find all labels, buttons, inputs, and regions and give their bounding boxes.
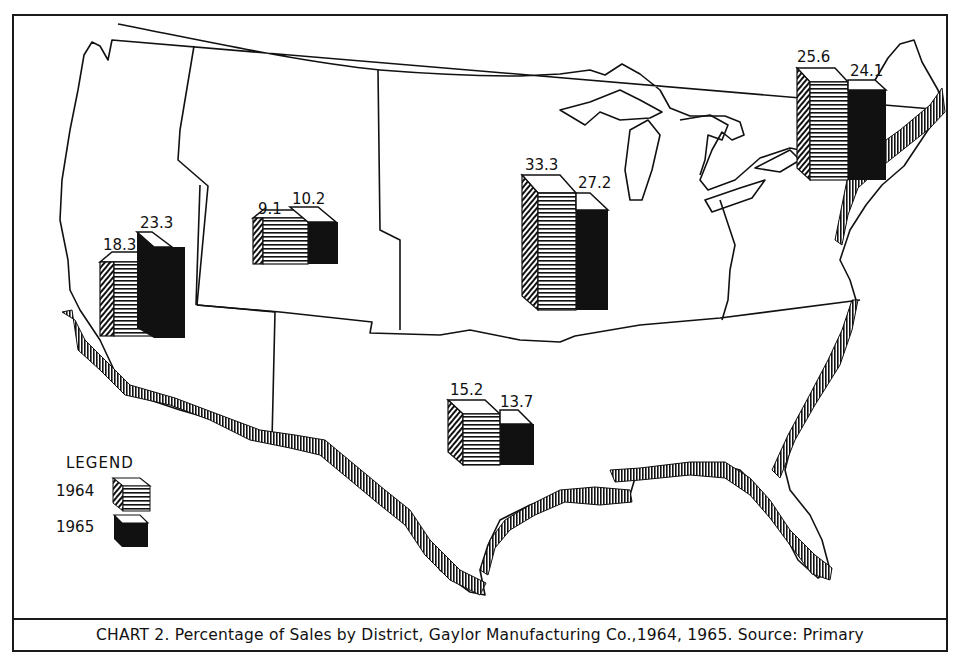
label-northeast-1965: 24.1 — [850, 62, 883, 80]
legend-label-1965: 1965 — [56, 518, 94, 536]
label-central-1964: 33.3 — [525, 156, 558, 174]
label-pacific-1965: 23.3 — [140, 214, 173, 232]
bars-northeast: 25.6 24.1 — [797, 48, 886, 180]
bars-pacific: 18.3 23.3 — [100, 214, 185, 338]
bars-central: 33.3 27.2 — [522, 156, 611, 310]
label-south-1965: 13.7 — [500, 393, 533, 411]
bars-mountain: 9.1 10.2 — [253, 190, 338, 264]
label-pacific-1964: 18.3 — [103, 236, 136, 254]
legend-label-1964: 1964 — [56, 482, 94, 500]
legend-swatch-1964 — [113, 478, 150, 511]
label-northeast-1964: 25.6 — [797, 48, 830, 66]
label-mountain-1965: 10.2 — [292, 190, 325, 208]
label-central-1965: 27.2 — [578, 174, 611, 192]
bars-south: 15.2 13.7 — [448, 381, 534, 465]
caption-band: CHART 2. Percentage of Sales by District… — [12, 618, 948, 652]
label-south-1964: 15.2 — [450, 381, 483, 399]
label-mountain-1964: 9.1 — [258, 200, 282, 218]
us-map: 18.3 23.3 9.1 10.2 33.3 27.2 25.6 24.1 — [0, 0, 962, 653]
legend-swatch-1965 — [114, 515, 148, 547]
legend-title: LEGEND — [66, 454, 134, 472]
chart-caption: CHART 2. Percentage of Sales by District… — [96, 626, 864, 644]
